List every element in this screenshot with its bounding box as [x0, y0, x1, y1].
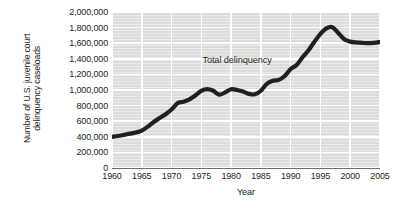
x-axis-title: Year: [112, 187, 380, 197]
x-tick-label: 1995: [311, 171, 330, 182]
y-tick-label: 1,800,000: [69, 23, 108, 32]
x-tick-label: 1970: [162, 171, 181, 182]
annotation-total-delinquency: Total delinquency: [202, 55, 271, 65]
x-axis-line: [112, 168, 380, 169]
x-tick-label: 1975: [192, 171, 211, 182]
x-tick-label: 2005: [370, 171, 389, 182]
x-tick-label: 1985: [251, 171, 270, 182]
x-tick-label: 1965: [132, 171, 151, 182]
x-tick-label: 1990: [281, 171, 300, 182]
chart-figure: Number of U.S. juvenile court delinquenc…: [0, 0, 410, 208]
x-tick-label: 2000: [341, 171, 360, 182]
y-tick-label: 400,000: [77, 132, 108, 141]
plot-area: [112, 12, 380, 168]
x-tick-label: 1980: [221, 171, 240, 182]
y-tick-label: 1,400,000: [69, 54, 108, 63]
y-tick-label: 2,000,000: [69, 8, 108, 17]
y-tick-label: 800,000: [77, 101, 108, 110]
y-tick-label: 1,600,000: [69, 39, 108, 48]
y-tick-label: 200,000: [77, 148, 108, 157]
line-total-delinquency: [112, 27, 380, 137]
y-tick-label: 600,000: [77, 117, 108, 126]
y-axis-title: Number of U.S. juvenile court delinquenc…: [22, 8, 43, 168]
x-tick-label: 1960: [102, 171, 121, 182]
y-tick-label: 1,000,000: [69, 86, 108, 95]
y-axis-title-line-1: Number of U.S. juvenile court: [22, 8, 32, 168]
y-axis-title-line-2: delinquency caseloads: [32, 8, 42, 168]
y-tick-label: 1,200,000: [69, 70, 108, 79]
y-axis-tick-labels: 0200,000400,000600,000800,0001,000,0001,…: [44, 12, 108, 168]
x-axis-tick-labels: 1960196519701975198019851990199520002005: [112, 171, 380, 185]
series-layer: [112, 12, 380, 168]
